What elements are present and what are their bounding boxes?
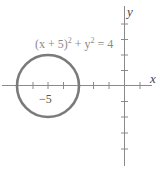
coordinate-plane: y x −5 (x + 5)2 + y2 = 4 — [0, 0, 162, 177]
x-axis-label: x — [149, 71, 156, 86]
tick-label-neg5: −5 — [39, 92, 52, 106]
y-axis-label: y — [125, 4, 133, 19]
circle-equation: (x + 5)2 + y2 = 4 — [35, 36, 113, 51]
